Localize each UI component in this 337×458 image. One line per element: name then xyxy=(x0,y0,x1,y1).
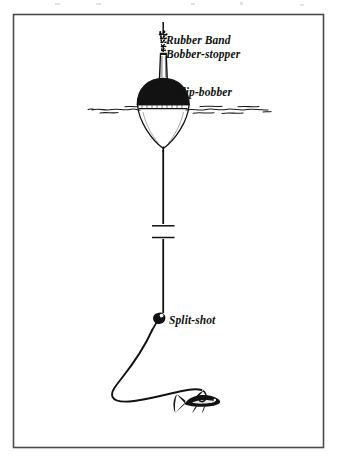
label-slip-bobber: Slip-bobber xyxy=(176,86,232,99)
label-rubber-band: Rubber Band xyxy=(165,34,231,46)
label-split-shot: Split-shot xyxy=(169,314,216,327)
label-bobber-stopper: Bobber-stopper xyxy=(165,48,241,61)
page-background xyxy=(0,0,337,458)
diagram-canvas: Rubber Band Bobber-stopper Slip-bobber S… xyxy=(0,0,337,458)
slip-bobber-diagram: Rubber Band Bobber-stopper Slip-bobber S… xyxy=(0,0,337,458)
